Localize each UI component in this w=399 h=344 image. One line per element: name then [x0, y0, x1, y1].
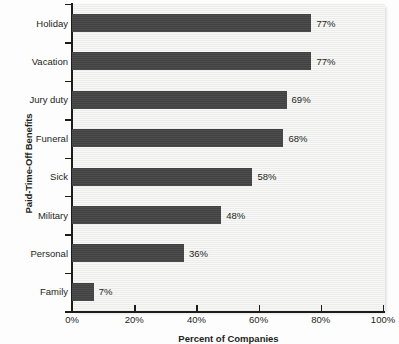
x-tick [134, 305, 135, 312]
bar-family [72, 283, 94, 301]
x-tick-label-80pct: 80% [296, 314, 346, 325]
data-label-funeral: 68% [288, 133, 307, 144]
y-tick [65, 119, 72, 120]
y-tick [65, 42, 72, 43]
category-label-family: Family [40, 286, 68, 297]
data-label-vacation: 77% [316, 56, 335, 67]
x-tick-label-100pct: 100% [358, 314, 399, 325]
x-axis-title: Percent of Companies [72, 333, 385, 344]
y-tick [65, 234, 72, 235]
y-tick [65, 81, 72, 82]
bar-jury-duty [72, 91, 287, 109]
x-tick [72, 305, 73, 312]
x-tick-label-60pct: 60% [234, 314, 284, 325]
bar-sick [72, 168, 252, 186]
y-tick [65, 196, 72, 197]
bar-holiday [72, 14, 311, 32]
category-label-sick: Sick [50, 171, 68, 182]
plot-area [72, 4, 385, 312]
y-tick [65, 311, 72, 312]
y-tick [65, 273, 72, 274]
category-label-holiday: Holiday [36, 18, 68, 29]
data-label-sick: 58% [257, 171, 276, 182]
y-tick [65, 158, 72, 159]
category-label-military: Military [38, 210, 68, 221]
y-tick [65, 4, 72, 5]
x-tick-label-20pct: 20% [109, 314, 159, 325]
x-tick [321, 305, 322, 312]
x-axis-line [71, 311, 385, 313]
x-tick [383, 305, 384, 312]
x-tick [196, 305, 197, 312]
x-tick [259, 305, 260, 312]
data-label-personal: 36% [189, 248, 208, 259]
bar-vacation [72, 52, 311, 70]
category-label-personal: Personal [31, 248, 69, 259]
category-label-jury-duty: Jury duty [29, 94, 68, 105]
x-tick-label-0pct: 0% [47, 314, 97, 325]
data-label-military: 48% [226, 210, 245, 221]
bar-chart-figure: Paid-Time-Off Benefits HolidayVacationJu… [0, 0, 399, 344]
category-label-vacation: Vacation [32, 56, 68, 67]
data-label-holiday: 77% [316, 18, 335, 29]
x-tick-label-40pct: 40% [171, 314, 221, 325]
category-label-funeral: Funeral [36, 133, 68, 144]
bar-funeral [72, 129, 283, 147]
data-label-family: 7% [99, 286, 113, 297]
bar-military [72, 206, 221, 224]
data-label-jury-duty: 69% [292, 94, 311, 105]
bar-personal [72, 244, 184, 262]
